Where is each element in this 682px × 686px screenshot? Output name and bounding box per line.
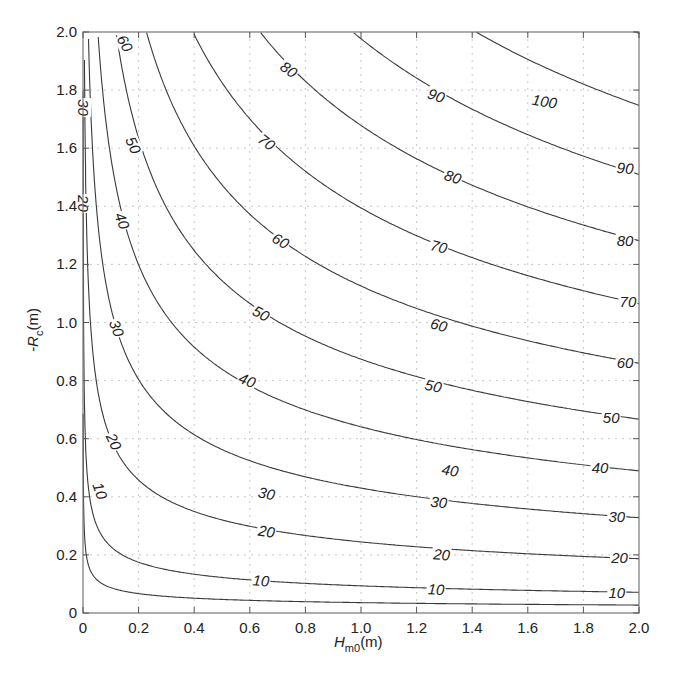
contour-label: 20: [256, 521, 277, 540]
contour-label: 60: [616, 354, 635, 371]
contour-label: 50: [602, 409, 621, 426]
contour-label: 80: [616, 232, 635, 249]
contour-label: 70: [618, 293, 637, 310]
contour-label: 10: [251, 571, 271, 590]
y-tick-label: 0.8: [56, 372, 77, 389]
contour-label-text: 90: [616, 159, 635, 177]
y-tick-label: 1.4: [56, 197, 77, 214]
y-tick-label: 2.0: [56, 23, 77, 40]
y-tick-label: 1.0: [56, 314, 77, 331]
x-tick-label: 0.6: [239, 619, 260, 636]
contour-label: 10: [607, 584, 626, 601]
contour-label: 20: [610, 549, 629, 566]
x-tick-label: 2.0: [629, 619, 650, 636]
contour-chart: 1010101020202020203030303030404040405050…: [0, 0, 682, 686]
contour-label-text: 60: [617, 354, 634, 371]
x-tick-label: 1.8: [573, 619, 594, 636]
contour-label-text: 70: [620, 293, 637, 310]
x-tick-label: 0.4: [184, 619, 205, 636]
x-tick-label: 0.8: [295, 619, 316, 636]
y-tick-label: 1.6: [56, 139, 77, 156]
contour-label-text: 20: [610, 549, 628, 566]
contour-label-text: 10: [427, 580, 445, 598]
x-tick-label: 1.4: [462, 619, 483, 636]
x-axis-title-main: H: [334, 633, 345, 650]
contour-label-text: 20: [432, 545, 451, 563]
contour-label: 30: [607, 508, 626, 525]
contour-label: 40: [439, 460, 461, 480]
y-tick-label: 0: [69, 604, 77, 621]
contour-label-text: 40: [592, 459, 609, 476]
x-tick-label: 0: [79, 619, 87, 636]
x-axis-title-unit: (m): [360, 633, 383, 650]
contour-label-text: 10: [252, 571, 271, 589]
y-tick-label: 0.2: [56, 546, 77, 563]
contour-label: 90: [615, 159, 635, 178]
contour-label-text: 30: [430, 493, 449, 512]
background: [0, 0, 682, 686]
contour-label-text: 80: [617, 232, 634, 249]
x-tick-label: 1.6: [517, 619, 538, 636]
contour-label-text: 10: [608, 584, 625, 601]
y-axis-title-unit: (m): [24, 308, 41, 331]
contour-label: 30: [429, 493, 450, 512]
contour-label: 40: [591, 459, 610, 476]
y-tick-label: 0.6: [56, 430, 77, 447]
y-tick-label: 1.2: [56, 255, 77, 272]
contour-label-text: 50: [603, 409, 620, 426]
contour-label-text: 30: [608, 508, 625, 525]
x-axis-title-sub: m0: [345, 642, 360, 654]
contour-label: 10: [426, 580, 446, 598]
y-tick-label: 1.8: [56, 81, 77, 98]
contour-label: 20: [432, 545, 452, 563]
x-tick-label: 1.2: [406, 619, 427, 636]
y-axis-title-main: -R: [24, 336, 41, 352]
contour-label-text: 20: [256, 521, 277, 540]
y-tick-label: 0.4: [56, 488, 77, 505]
x-tick-label: 0.2: [128, 619, 149, 636]
